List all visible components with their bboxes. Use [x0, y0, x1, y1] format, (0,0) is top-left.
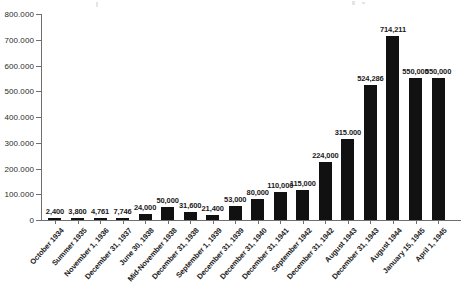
bar-value-label: 24,000 [134, 203, 156, 212]
x-axis-tick [213, 220, 214, 224]
x-axis-tick [235, 220, 236, 224]
x-axis-tick [100, 220, 101, 224]
x-axis-tick [190, 220, 191, 224]
x-axis-tick [123, 220, 124, 224]
x-axis-tick [145, 220, 146, 224]
bar-value-label: 21,400 [202, 204, 224, 213]
x-axis-tick [348, 220, 349, 224]
bar: 315.000 [341, 139, 354, 220]
y-axis-tick [36, 194, 41, 195]
y-axis-tick [36, 66, 41, 67]
bar-value-label: 3,800 [68, 207, 86, 216]
y-axis-label: 700.000 [4, 35, 34, 44]
bar-value-label: 315.000 [335, 128, 361, 137]
bar: 31,600 [184, 212, 197, 220]
scan-artifact [352, 1, 355, 5]
x-axis-tick [416, 220, 417, 224]
bar-value-label: 50,000 [156, 196, 178, 205]
plot-area: 800.000700.000600.000500.000400.000300.0… [41, 14, 459, 220]
x-axis-tick [55, 220, 56, 224]
bar-value-label: 7,746 [113, 207, 131, 216]
y-axis-tick [36, 117, 41, 118]
bar-value-label: 2,400 [46, 207, 64, 216]
y-axis-label: 0 [29, 216, 34, 225]
x-axis-tick [370, 220, 371, 224]
bar-value-label: 53,000 [224, 195, 246, 204]
x-axis-tick [325, 220, 326, 224]
y-axis-tick [36, 220, 41, 221]
bar: 50,000 [161, 207, 174, 220]
x-axis-tick [78, 220, 79, 224]
scan-artifact [362, 2, 365, 4]
bar: 550,000 [409, 78, 422, 220]
x-axis-tick [393, 220, 394, 224]
y-axis-tick [36, 91, 41, 92]
y-axis-tick [36, 40, 41, 41]
y-axis-label: 800.000 [4, 10, 34, 19]
y-axis-label: 400.000 [4, 113, 34, 122]
x-axis-tick [168, 220, 169, 224]
y-axis-label: 200.000 [4, 164, 34, 173]
bar-value-label: 524,286 [357, 74, 383, 83]
y-axis-label: 500.000 [4, 87, 34, 96]
bar: 110,000 [274, 192, 287, 220]
x-axis-tick [280, 220, 281, 224]
y-axis-label: 300.000 [4, 138, 34, 147]
bar: 53,000 [229, 206, 242, 220]
scan-artifact [96, 2, 98, 7]
bar-value-label: 4,761 [91, 207, 109, 216]
bar: 115,000 [296, 190, 309, 220]
bar: 224,000 [319, 162, 332, 220]
bar-value-label: 31,600 [179, 201, 201, 210]
bar-chart: 800.000700.000600.000500.000400.000300.0… [0, 0, 465, 295]
bar: 524,286 [364, 85, 377, 220]
x-axis-line [41, 220, 461, 221]
bar-value-label: 714,211 [380, 25, 406, 34]
bar-value-label: 80,000 [247, 188, 269, 197]
y-axis-label: 600.000 [4, 61, 34, 70]
y-axis-tick [36, 169, 41, 170]
x-axis-tick [438, 220, 439, 224]
y-axis-tick [36, 14, 41, 15]
y-axis-tick [36, 143, 41, 144]
bar: 550,000 [432, 78, 445, 220]
x-axis-tick [303, 220, 304, 224]
x-axis-tick [258, 220, 259, 224]
bar: 80,000 [251, 199, 264, 220]
y-axis-label: 100.000 [4, 190, 34, 199]
bar-value-label: 550,000 [425, 67, 451, 76]
bar-value-label: 224,000 [312, 151, 338, 160]
bar-value-label: 115,000 [290, 179, 316, 188]
bar: 714,211 [386, 36, 399, 220]
